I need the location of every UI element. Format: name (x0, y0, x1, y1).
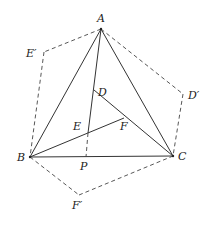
label-E: E (72, 120, 81, 133)
point-C (172, 155, 174, 157)
segment-D-prime-C (173, 94, 183, 156)
point-B (29, 156, 31, 158)
label-D: D (97, 86, 107, 99)
segment-EP (86, 133, 88, 157)
segment-AC (101, 29, 173, 156)
segment-F-prime-C (79, 156, 173, 195)
segment-AB (30, 29, 101, 157)
label-F-prime: F′ (71, 199, 83, 212)
segment-BC (30, 156, 173, 157)
segment-AE (88, 29, 101, 133)
segment-BF-prime (30, 157, 79, 195)
segment-AD-prime (101, 29, 183, 94)
segment-DC (94, 90, 173, 156)
segment-E-prime-B (30, 52, 44, 157)
label-C: C (178, 150, 187, 163)
label-E-prime: E′ (25, 47, 37, 60)
segment-AE-prime (44, 29, 101, 52)
label-F: F (119, 120, 128, 133)
label-A: A (96, 12, 105, 25)
point-A (100, 28, 102, 30)
label-P: P (79, 160, 88, 173)
geometry-diagram: A B C D E F P E′ D′ F′ (0, 0, 215, 229)
label-B: B (16, 151, 25, 164)
label-D-prime: D′ (187, 89, 200, 102)
